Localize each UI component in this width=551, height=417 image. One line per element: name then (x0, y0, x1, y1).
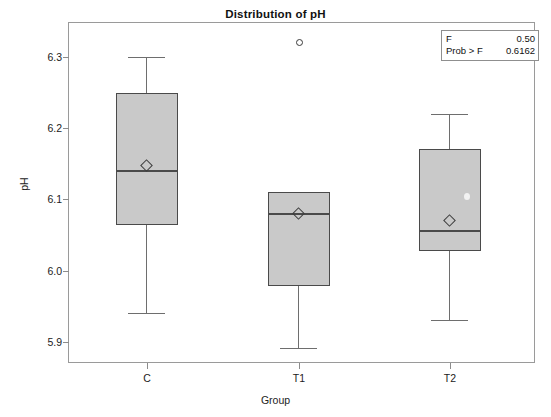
legend-row-prob-f: Prob > F 0.6162 (446, 45, 535, 57)
median-line-t2 (419, 230, 481, 232)
x-tick-mark-t2 (450, 363, 451, 369)
y-tick-label-6.0: 6.0 (18, 265, 62, 277)
whisker-lower-t2 (449, 251, 450, 321)
x-tick-mark-c (147, 363, 148, 369)
y-tick-label-6.1: 6.1 (18, 193, 62, 205)
whisker-cap-lower-t2 (431, 320, 468, 321)
chart-title: Distribution of pH (0, 8, 551, 20)
x-axis-label: Group (0, 394, 551, 406)
legend-value-prob-f: 0.6162 (506, 45, 535, 57)
whisker-lower-t1 (298, 286, 299, 349)
y-tick-label-5.9: 5.9 (18, 336, 62, 348)
y-tick-mark-6.3 (63, 57, 69, 58)
whisker-upper-c (146, 57, 147, 93)
whisker-cap-lower-c (128, 313, 165, 314)
stats-legend-box: F 0.50 Prob > F 0.6162 (441, 30, 539, 61)
x-tick-label-t1: T1 (264, 372, 334, 384)
y-tick-label-6.2: 6.2 (18, 122, 62, 134)
whisker-cap-upper-c (128, 57, 165, 58)
legend-row-f: F 0.50 (446, 33, 535, 45)
whisker-cap-upper-t2 (431, 114, 468, 115)
x-tick-mark-t1 (299, 363, 300, 369)
box-t2 (419, 149, 481, 251)
y-tick-mark-6.1 (63, 199, 69, 200)
whisker-lower-c (146, 225, 147, 314)
legend-key-f: F (446, 33, 458, 45)
legend-value-f: 0.50 (517, 33, 536, 45)
artifact-dot-t2 (464, 193, 470, 200)
legend-key-prob-f: Prob > F (446, 45, 489, 57)
whisker-cap-lower-t1 (280, 348, 317, 349)
y-tick-mark-6.2 (63, 128, 69, 129)
y-tick-mark-5.9 (63, 342, 69, 343)
box-plot-chart: Distribution of pH pH 6.3 6.2 6.1 6.0 5.… (0, 0, 551, 417)
y-axis-label: pH (18, 154, 30, 214)
box-t1 (268, 192, 330, 286)
y-tick-label-6.3: 6.3 (18, 51, 62, 63)
x-tick-label-t2: T2 (415, 372, 485, 384)
y-tick-mark-6.0 (63, 271, 69, 272)
outlier-point-t1 (296, 39, 303, 46)
whisker-upper-t2 (449, 114, 450, 149)
x-tick-label-c: C (112, 372, 182, 384)
